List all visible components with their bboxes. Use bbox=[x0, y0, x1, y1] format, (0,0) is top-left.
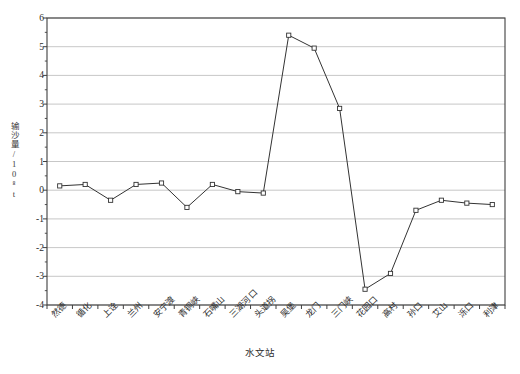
x-tick-label: 然德 bbox=[50, 301, 69, 320]
figure-caption bbox=[0, 368, 520, 374]
chart-figure: 输沙量/10⁸t 6543210-1-2-3-4 然德循化上诠兰州安宁渡青铜峡石… bbox=[0, 0, 520, 374]
x-tick-label: 兰州 bbox=[126, 301, 145, 320]
x-tick-label: 泺口 bbox=[457, 301, 476, 320]
x-tick-label: 青铜峡 bbox=[177, 294, 202, 319]
x-tick-label: 高村 bbox=[381, 301, 400, 320]
x-tick-label: 艾山 bbox=[431, 301, 450, 320]
x-tick-label: 循化 bbox=[75, 301, 94, 320]
x-tick-label: 花园口 bbox=[355, 294, 380, 319]
x-tick-label: 吴堡 bbox=[279, 301, 298, 320]
x-tick-label: 三门峡 bbox=[330, 294, 355, 319]
x-tick-label: 龙门 bbox=[304, 301, 323, 320]
x-tick-label: 石嘴山 bbox=[202, 294, 227, 319]
x-tick-label: 安宁渡 bbox=[152, 294, 177, 319]
x-axis-title: 水文站 bbox=[0, 345, 520, 359]
x-tick-label: 头道拐 bbox=[253, 294, 278, 319]
x-tick-label: 孙口 bbox=[406, 301, 425, 320]
x-tick-label: 上诠 bbox=[101, 301, 120, 320]
x-tick-label: 利津 bbox=[482, 301, 501, 320]
x-axis-tick-labels: 然德循化上诠兰州安宁渡青铜峡石嘴山三湖河口头道拐吴堡龙门三门峡花园口高村孙口艾山… bbox=[0, 0, 520, 374]
